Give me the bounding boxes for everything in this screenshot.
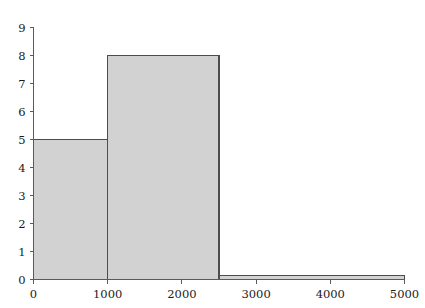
x-tick-label: 4000 (316, 287, 345, 301)
x-tick-label: 2000 (167, 287, 196, 301)
histogram-bar (108, 56, 219, 280)
y-tick-label: 2 (18, 217, 25, 231)
x-axis-ticks: 010002000300040005000 (30, 280, 419, 301)
histogram-chart: 0123456789 010002000300040005000 (0, 0, 425, 308)
y-tick-label: 3 (18, 189, 25, 203)
y-tick-label: 5 (18, 133, 25, 147)
y-tick-label: 1 (18, 245, 25, 259)
y-axis-ticks: 0123456789 (18, 21, 33, 287)
y-tick-label: 6 (18, 105, 25, 119)
x-tick-label: 0 (30, 287, 37, 301)
x-tick-label: 5000 (390, 287, 419, 301)
y-tick-label: 4 (18, 161, 25, 175)
y-tick-label: 8 (18, 49, 25, 63)
y-tick-label: 9 (18, 21, 25, 35)
histogram-bar (34, 140, 108, 280)
y-tick-label: 7 (18, 77, 25, 91)
x-tick-label: 3000 (241, 287, 270, 301)
x-tick-label: 1000 (93, 287, 122, 301)
histogram-bar (219, 276, 405, 280)
plot-area: 0123456789 010002000300040005000 (0, 0, 425, 308)
bars-group (34, 56, 405, 280)
y-tick-label: 0 (18, 273, 25, 287)
